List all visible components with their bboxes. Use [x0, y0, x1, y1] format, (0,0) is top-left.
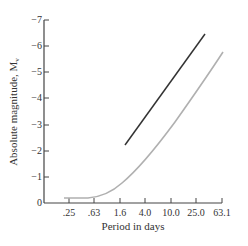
svg-text:Absolute magnitude, Mv: Absolute magnitude, Mv	[7, 58, 21, 166]
y-tick-label: −2	[31, 145, 42, 156]
y-tick-label: −6	[31, 40, 42, 51]
y-tick-label: −7	[31, 14, 42, 25]
y-axis-title-subscript: v	[13, 58, 21, 62]
x-tick-label: 4.0	[139, 207, 152, 218]
x-tick-label: 25.0	[187, 207, 205, 218]
x-tick-label: .63	[88, 207, 101, 218]
y-axis-title-group: Absolute magnitude, Mv	[7, 58, 21, 166]
y-tick-label: −3	[31, 119, 42, 130]
y-tick-label: −5	[31, 66, 42, 77]
x-tick-label: .25	[63, 207, 76, 218]
y-tick-label: −4	[31, 92, 42, 103]
lower-curve-series	[64, 52, 223, 198]
x-tick-label: 63.1	[213, 207, 231, 218]
x-tick-label: 10.0	[162, 207, 180, 218]
y-tick-labels: 0 −1 −2 −3 −4 −5 −6 −7	[31, 14, 42, 208]
x-axis-title: Period in days	[102, 220, 165, 232]
y-axis-title: Absolute magnitude, M	[7, 61, 19, 165]
upper-line-series	[125, 34, 205, 145]
x-ticks	[69, 198, 222, 203]
x-tick-labels: .25 .63 1.6 4.0 10.0 25.0 63.1	[63, 207, 231, 218]
y-tick-label: 0	[37, 197, 42, 208]
y-tick-label: −1	[31, 171, 42, 182]
y-ticks	[44, 20, 49, 177]
chart: 0 −1 −2 −3 −4 −5 −6 −7 .25 .63 1.6 4.0 1…	[0, 0, 248, 246]
x-tick-label: 1.6	[114, 207, 127, 218]
